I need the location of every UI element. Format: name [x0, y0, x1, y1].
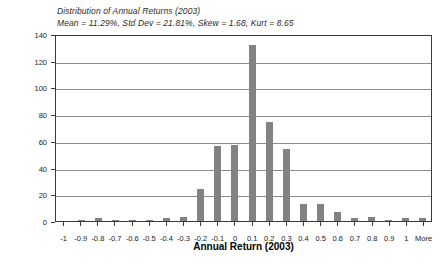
x-tick-mark	[269, 222, 270, 226]
bar	[283, 149, 290, 221]
x-tick-mark	[286, 222, 287, 226]
x-tick-slot	[226, 222, 243, 226]
x-tick-mark	[372, 222, 373, 226]
bar-series	[56, 36, 431, 221]
bar	[334, 212, 341, 221]
x-tick-slot	[106, 222, 123, 226]
bar-slot	[158, 36, 175, 221]
bar-slot	[90, 36, 107, 221]
x-tick-slot	[415, 222, 432, 226]
bar-slot	[312, 36, 329, 221]
bar	[317, 204, 324, 221]
bar-slot	[414, 36, 431, 221]
x-tick-slot	[192, 222, 209, 226]
bar-slot	[380, 36, 397, 221]
y-tick-label: 140	[34, 31, 47, 40]
x-axis-title: Annual Return (2003)	[55, 241, 432, 252]
bar	[180, 217, 187, 221]
bar-slot	[175, 36, 192, 221]
bar-slot	[295, 36, 312, 221]
x-tick-slot	[329, 222, 346, 226]
x-tick-mark	[200, 222, 201, 226]
bar	[385, 220, 392, 221]
bar	[112, 220, 119, 221]
x-tick-slot	[89, 222, 106, 226]
bar	[351, 218, 358, 221]
bar	[419, 218, 426, 221]
x-tick-slot	[278, 222, 295, 226]
bar-slot	[261, 36, 278, 221]
x-tick-mark	[114, 222, 115, 226]
bar-slot	[124, 36, 141, 221]
bar	[129, 220, 136, 221]
bar	[78, 220, 85, 221]
bar	[95, 218, 102, 221]
x-tick-mark	[406, 222, 407, 226]
x-tick-slot	[175, 222, 192, 226]
x-tick-slot	[261, 222, 278, 226]
x-tick-mark	[149, 222, 150, 226]
x-tick-slot	[209, 222, 226, 226]
x-tick-mark	[337, 222, 338, 226]
x-tick-mark	[217, 222, 218, 226]
bar-slot	[107, 36, 124, 221]
bar-slot	[329, 36, 346, 221]
bar	[300, 204, 307, 221]
y-tick-label: 80	[39, 111, 47, 120]
x-tick-slot	[158, 222, 175, 226]
bar	[249, 45, 256, 221]
chart-title-block: Distribution of Annual Returns (2003) Me…	[57, 6, 294, 29]
x-tick-mark	[320, 222, 321, 226]
bar-slot	[73, 36, 90, 221]
x-tick-slot	[244, 222, 261, 226]
y-tick-label: 40	[39, 164, 47, 173]
y-tick-label: 0	[43, 218, 47, 227]
bar-slot	[192, 36, 209, 221]
y-axis: Frequency 020406080100120140	[0, 35, 55, 222]
chart-title: Distribution of Annual Returns (2003)	[57, 6, 294, 18]
x-tick-mark	[303, 222, 304, 226]
x-tick-mark	[183, 222, 184, 226]
bar-slot	[397, 36, 414, 221]
x-tick-slot	[295, 222, 312, 226]
x-tick-mark	[63, 222, 64, 226]
x-tick-mark	[234, 222, 235, 226]
bar-slot	[278, 36, 295, 221]
x-tick-slot	[381, 222, 398, 226]
bar	[402, 218, 409, 221]
bar	[214, 146, 221, 221]
x-tick-slot	[124, 222, 141, 226]
bar	[266, 122, 273, 221]
bar	[163, 218, 170, 221]
bar-slot	[363, 36, 380, 221]
y-tick-label: 20	[39, 191, 47, 200]
bar-slot	[56, 36, 73, 221]
x-tick-mark	[354, 222, 355, 226]
x-tick-mark	[252, 222, 253, 226]
histogram-chart: Distribution of Annual Returns (2003) Me…	[0, 0, 442, 269]
bar	[146, 220, 153, 221]
y-tick-label: 60	[39, 137, 47, 146]
x-tick-slot	[72, 222, 89, 226]
x-tick-group	[55, 222, 432, 226]
x-tick-mark	[80, 222, 81, 226]
bar	[231, 145, 238, 221]
plot-area	[55, 35, 432, 222]
bar-slot	[346, 36, 363, 221]
x-tick-mark	[97, 222, 98, 226]
bar-slot	[141, 36, 158, 221]
x-tick-mark	[166, 222, 167, 226]
x-tick-mark	[423, 222, 424, 226]
y-tick-label: 120	[34, 57, 47, 66]
bar-slot	[209, 36, 226, 221]
x-tick-slot	[55, 222, 72, 226]
x-tick-slot	[398, 222, 415, 226]
chart-subtitle: Mean = 11.29%, Std Dev = 21.81%, Skew = …	[57, 18, 294, 30]
x-tick-slot	[364, 222, 381, 226]
x-tick-mark	[132, 222, 133, 226]
x-tick-slot	[312, 222, 329, 226]
x-tick-mark	[389, 222, 390, 226]
x-tick-slot	[141, 222, 158, 226]
bar	[197, 189, 204, 221]
bar	[368, 217, 375, 221]
